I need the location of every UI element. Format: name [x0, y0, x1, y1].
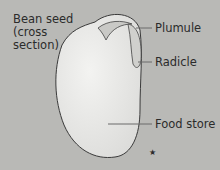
label-radicle: Radicle	[155, 56, 197, 69]
label-food-store: Food store	[155, 118, 215, 131]
seed-outline	[56, 14, 142, 157]
star-marker-icon: ★	[149, 146, 156, 159]
title-line-3: section)	[13, 39, 59, 52]
label-plumule: Plumule	[155, 22, 201, 35]
